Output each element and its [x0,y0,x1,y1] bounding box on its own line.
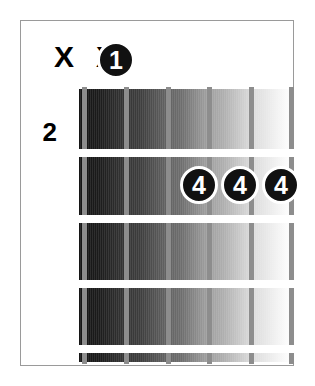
finger-dot-3: 4 [221,166,259,204]
fret-line-2 [79,215,297,223]
chord-diagram-card: 2 X X 1 4 4 4 [0,0,315,386]
fret-line-1 [79,149,297,157]
mute-marker-string-1: X [51,42,77,72]
string-1 [82,87,87,364]
finger-dot-2: 4 [180,166,218,204]
string-2 [124,87,129,364]
string-6 [289,87,294,364]
fret-line-4 [79,345,297,353]
fretboard [79,89,297,362]
string-3 [166,87,171,364]
fret-position-label: 2 [31,119,57,145]
fretboard-surface [79,89,297,362]
finger-dot-1: 1 [97,41,135,79]
string-4 [207,87,212,364]
diagram-border: 2 X X 1 4 4 4 [20,20,294,366]
string-5 [249,87,254,364]
fret-line-3 [79,280,297,288]
finger-dot-4: 4 [262,166,300,204]
